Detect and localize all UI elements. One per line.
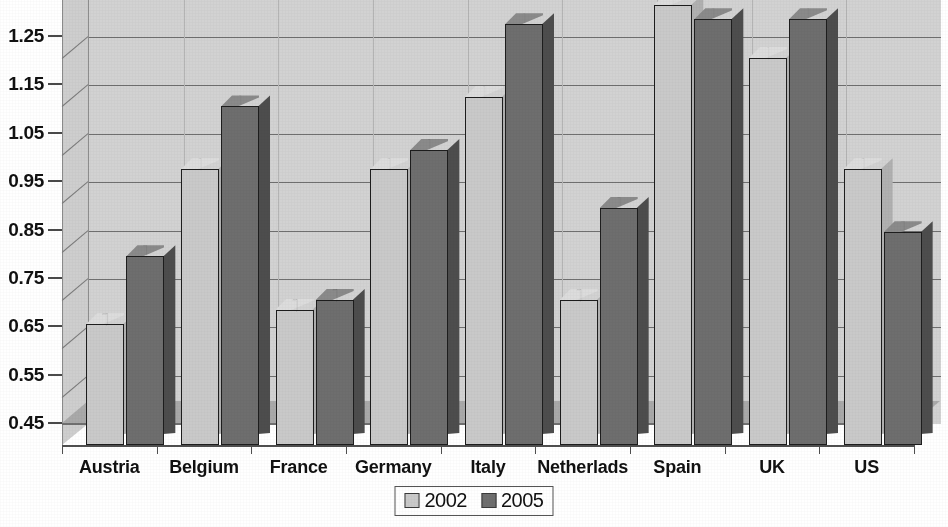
y-axis-tick-mark: [48, 374, 62, 376]
bar-front-face: [749, 58, 787, 445]
x-axis-tick: [535, 445, 536, 454]
bar-front-face: [694, 19, 732, 445]
x-axis-tick: [441, 445, 442, 454]
bar-front-face: [276, 310, 314, 445]
bar-italy-2005: [505, 24, 543, 445]
legend-item-2005: 2005: [481, 489, 544, 512]
bar-austria-2002: [86, 324, 124, 445]
x-axis-label-uk: UK: [759, 457, 785, 478]
y-axis-tick-label: 0.65: [8, 315, 44, 337]
bar-netherlads-2002: [560, 300, 598, 445]
x-axis-tick: [346, 445, 347, 454]
y-axis-tick-label: 0.95: [8, 170, 44, 192]
bar-uk-2005: [789, 19, 827, 445]
bar-italy-2002: [465, 97, 503, 445]
bar-front-face: [600, 208, 638, 445]
bar-front-face: [465, 97, 503, 445]
bar-front-face: [221, 106, 259, 445]
x-axis-tick: [819, 445, 820, 454]
bar-front-face: [370, 169, 408, 445]
bar-spain-2005: [694, 19, 732, 445]
bar-front-face: [560, 300, 598, 445]
x-axis-label-austria: Austria: [79, 457, 140, 478]
y-axis-tick-mark: [48, 83, 62, 85]
y-axis-tick-label: 0.55: [8, 364, 44, 386]
bar-spain-2002: [654, 5, 692, 445]
bar-belgium-2005: [221, 106, 259, 445]
y-axis-tick-mark: [48, 132, 62, 134]
bar-front-face: [126, 256, 164, 445]
bar-front-face: [86, 324, 124, 445]
x-axis-tick: [725, 445, 726, 454]
y-axis-tick-mark: [48, 325, 62, 327]
x-axis-label-belgium: Belgium: [169, 457, 239, 478]
x-axis-label-france: France: [270, 457, 328, 478]
bar-uk-2002: [749, 58, 787, 445]
bar-side-face: [163, 245, 176, 434]
bar-side-face: [258, 95, 271, 434]
bar-belgium-2002: [181, 169, 219, 445]
bar-front-face: [316, 300, 354, 445]
y-axis-tick-mark: [48, 422, 62, 424]
y-axis-tick-label: 0.85: [8, 219, 44, 241]
y-axis: 0.450.550.650.750.850.951.051.151.25: [0, 0, 62, 460]
y-axis-tick-mark: [48, 35, 62, 37]
x-axis-label-spain: Spain: [653, 457, 701, 478]
x-axis-label-netherlads: Netherlads: [537, 457, 628, 478]
legend-swatch-2005: [481, 493, 496, 508]
y-axis-tick-mark: [48, 180, 62, 182]
x-axis: AustriaBelgiumFranceGermanyItalyNetherla…: [62, 445, 940, 485]
bar-side-face: [353, 289, 366, 434]
bar-france-2002: [276, 310, 314, 445]
x-axis-tick: [157, 445, 158, 454]
x-axis-tick: [251, 445, 252, 454]
bar-side-face: [447, 139, 460, 434]
y-axis-tick-mark: [48, 229, 62, 231]
bar-chart: 0.450.550.650.750.850.951.051.151.25 Aus…: [0, 0, 948, 527]
bar-front-face: [884, 232, 922, 445]
bar-front-face: [844, 169, 882, 445]
bar-germany-2002: [370, 169, 408, 445]
y-axis-tick-label: 0.75: [8, 267, 44, 289]
y-axis-tick-label: 1.05: [8, 122, 44, 144]
bar-us-2005: [884, 232, 922, 445]
x-axis-tick: [914, 445, 915, 454]
x-axis-label-us: US: [854, 457, 879, 478]
bar-austria-2005: [126, 256, 164, 445]
bar-side-face: [542, 13, 555, 434]
legend-swatch-2002: [405, 493, 420, 508]
bar-side-face: [637, 197, 650, 434]
x-axis-tick: [62, 445, 63, 454]
bar-us-2002: [844, 169, 882, 445]
y-axis-tick-mark: [48, 277, 62, 279]
bars-layer: [62, 0, 940, 468]
bar-front-face: [410, 150, 448, 445]
bar-germany-2005: [410, 150, 448, 445]
bar-side-face: [826, 8, 839, 434]
bar-netherlads-2005: [600, 208, 638, 445]
legend-label-2002: 2002: [425, 489, 468, 512]
bar-side-face: [921, 221, 934, 434]
bar-front-face: [181, 169, 219, 445]
y-axis-tick-label: 1.15: [8, 73, 44, 95]
x-axis-tick: [630, 445, 631, 454]
plot-area: [62, 0, 940, 468]
legend-item-2002: 2002: [405, 489, 468, 512]
y-axis-tick-label: 0.45: [8, 412, 44, 434]
bar-front-face: [654, 5, 692, 445]
bar-france-2005: [316, 300, 354, 445]
bar-front-face: [789, 19, 827, 445]
y-axis-tick-label: 1.25: [8, 25, 44, 47]
bar-side-face: [731, 8, 744, 434]
x-axis-label-italy: Italy: [470, 457, 505, 478]
legend-label-2005: 2005: [501, 489, 544, 512]
bar-front-face: [505, 24, 543, 445]
chart-legend: 20022005: [395, 486, 554, 516]
x-axis-label-germany: Germany: [355, 457, 432, 478]
x-axis-line: [62, 445, 914, 447]
